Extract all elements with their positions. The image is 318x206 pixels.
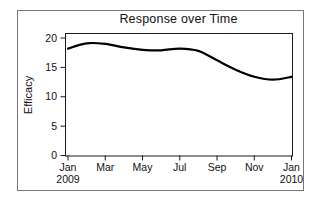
x-tick-label: Sep xyxy=(208,161,227,173)
plot-frame xyxy=(66,34,293,157)
data-line-series xyxy=(68,43,292,80)
x-tick-label: Mar xyxy=(96,161,115,173)
y-tick-label: 10 xyxy=(45,90,57,102)
y-tick-label: 15 xyxy=(45,61,57,73)
x-tick-label: Jan xyxy=(60,161,77,173)
y-tick-label: 0 xyxy=(51,149,57,161)
x-tick-label: Jan xyxy=(283,161,300,173)
x-tick-label: Jul xyxy=(173,161,186,173)
y-tick-label: 5 xyxy=(51,120,57,132)
x-tick-sublabel: 2010 xyxy=(280,173,304,185)
chart-figure: Response over Time Efficacy 05101520Jan2… xyxy=(0,0,318,206)
x-tick-sublabel: 2009 xyxy=(56,173,80,185)
x-tick-label: May xyxy=(133,161,154,173)
x-tick-label: Nov xyxy=(245,161,264,173)
line-chart-plot: 05101520Jan2009MarMayJulSepNovJan2010 xyxy=(0,0,318,206)
y-tick-label: 20 xyxy=(45,32,57,44)
